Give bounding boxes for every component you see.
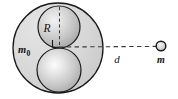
radius-label: R	[42, 22, 50, 34]
figure-canvas: R m 0 d m	[0, 0, 178, 99]
shell-mass-label-m: m	[18, 44, 26, 55]
point-mass-circle	[156, 41, 166, 51]
point-mass-label: m	[157, 54, 165, 65]
distance-label: d	[114, 53, 120, 65]
lower-sphere	[37, 48, 81, 92]
physics-figure: R m 0 d m	[0, 0, 178, 99]
shell-mass-label-subscript: 0	[27, 49, 31, 58]
